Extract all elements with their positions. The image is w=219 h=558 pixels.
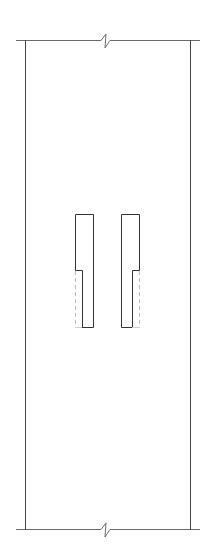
left-slot-opening bbox=[75, 215, 94, 328]
section-diagram bbox=[0, 0, 219, 558]
top-break-line bbox=[16, 34, 200, 48]
right-slot-opening bbox=[122, 215, 141, 328]
bottom-break-line bbox=[16, 523, 200, 537]
